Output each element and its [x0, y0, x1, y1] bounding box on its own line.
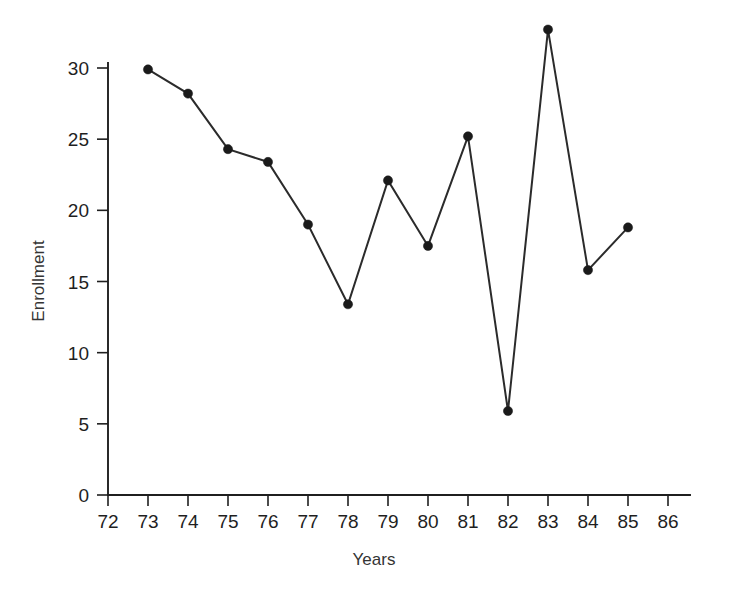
x-tick-label: 83: [537, 511, 558, 532]
x-tick-label: 86: [657, 511, 678, 532]
x-tick-label: 78: [337, 511, 358, 532]
data-point: [503, 406, 512, 415]
y-tick-label: 30: [68, 58, 89, 79]
x-tick-label: 77: [297, 511, 318, 532]
data-point: [463, 132, 472, 141]
data-point: [223, 145, 232, 154]
data-point: [623, 223, 632, 232]
x-tick-label: 80: [417, 511, 438, 532]
y-tick-label: 25: [68, 129, 89, 150]
x-axis-title: Years: [353, 550, 396, 569]
data-point: [383, 176, 392, 185]
x-axis-tick-labels: 727374757677787980818283848586: [97, 511, 678, 532]
y-tick-label: 20: [68, 200, 89, 221]
data-point: [423, 241, 432, 250]
x-tick-label: 73: [137, 511, 158, 532]
x-tick-label: 72: [97, 511, 118, 532]
data-point: [303, 220, 312, 229]
x-tick-label: 85: [617, 511, 638, 532]
x-tick-label: 79: [377, 511, 398, 532]
y-tick-label: 5: [78, 414, 89, 435]
x-tick-label: 74: [177, 511, 199, 532]
x-tick-label: 84: [577, 511, 599, 532]
y-tick-label: 0: [78, 485, 89, 506]
data-point: [143, 65, 152, 74]
x-tick-label: 76: [257, 511, 278, 532]
data-point: [343, 300, 352, 309]
x-tick-label: 82: [497, 511, 518, 532]
enrollment-line-chart: 051015202530 Enrollment 7273747576777879…: [0, 0, 748, 600]
y-axis-title: Enrollment: [29, 240, 48, 322]
chart-background: [0, 0, 748, 600]
data-point: [183, 89, 192, 98]
y-tick-label: 15: [68, 272, 89, 293]
data-point: [263, 157, 272, 166]
data-point: [543, 25, 552, 34]
x-tick-label: 75: [217, 511, 238, 532]
data-point: [583, 266, 592, 275]
y-tick-label: 10: [68, 343, 89, 364]
chart-container: 051015202530 Enrollment 7273747576777879…: [0, 0, 748, 600]
x-tick-label: 81: [457, 511, 478, 532]
